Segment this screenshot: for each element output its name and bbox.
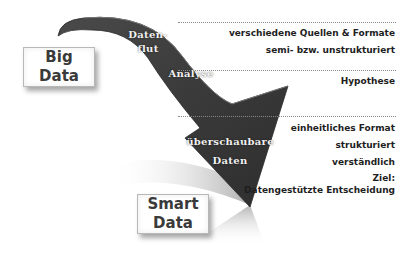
big-data-line1: Big [24, 48, 94, 67]
text-unstrukturiert: semi- bzw. unstrukturiert [266, 44, 395, 56]
divider-2 [178, 70, 396, 71]
datenflut-line2: flut [128, 42, 168, 56]
divider-1 [178, 22, 396, 23]
text-quellen-formate: verschiedene Quellen & Formate [229, 27, 395, 39]
label-ueberschaubare-daten: überschaubare Daten [185, 132, 275, 170]
datenflut-line1: Daten- [128, 28, 168, 42]
daten-text: Daten [185, 151, 275, 170]
big-data-smart-data-diagram: Big Data Smart Data Daten- flut Analyse … [0, 0, 405, 259]
smart-data-line1: Smart [138, 195, 208, 214]
text-verstaendlich: verständlich [332, 156, 395, 168]
label-datenflut: Daten- flut [128, 28, 168, 56]
text-strukturiert: strukturiert [335, 139, 395, 151]
text-einheitliches-format: einheitliches Format [291, 122, 395, 134]
text-ziel-label: Ziel: [373, 172, 395, 184]
big-data-box: Big Data [23, 47, 95, 87]
smart-data-line2: Data [138, 214, 208, 233]
text-hypothese: Hypothese [341, 75, 395, 87]
divider-3 [178, 116, 396, 117]
smart-data-box: Smart Data [137, 194, 209, 234]
text-ziel-entscheidung: Datengestützte Entscheidung [244, 184, 395, 196]
big-data-line2: Data [24, 67, 94, 86]
ueberschaubare-text: überschaubare [185, 132, 275, 151]
